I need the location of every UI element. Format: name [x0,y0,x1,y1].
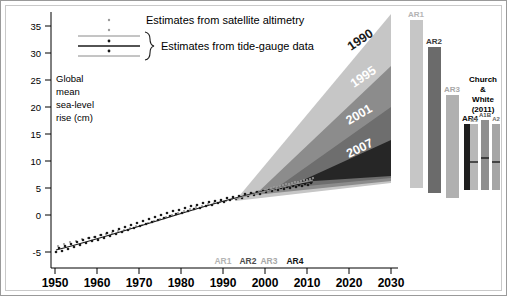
x-tick-label: 2030 [378,276,405,290]
y-tick-label: 10 [30,156,41,167]
church-white-group: Church & White (2011) B1 A1B A2 [469,75,500,190]
report-marker-ar1: AR1 [214,256,231,266]
y-tick-label: 25 [30,75,41,86]
y-axis-label-line: mean [56,86,80,97]
legend-brace-icon [145,32,154,60]
range-bar-label-ar1: AR1 [408,10,425,19]
report-marker-ar4: AR4 [286,256,303,266]
x-tick-label: 2000 [252,276,279,290]
church-white-label-b1: B1 [470,117,478,123]
figure-container: 1990 1995 2001 2007 [0,0,507,296]
legend-label-satellite: Estimates from satellite altimetry [146,14,305,26]
observed-data [55,177,314,253]
report-year-markers: AR1 AR2 AR3 AR4 [214,256,303,266]
x-tick-label: 2010 [294,276,321,290]
church-white-title-line: White [472,95,494,104]
x-tick-label: 1950 [42,276,69,290]
church-white-bar-a2 [492,124,500,190]
y-axis-label: Global mean sea-level rise (cm) [56,73,94,123]
y-ticks [45,26,51,252]
y-axis-label-line: sea-level [56,99,94,110]
church-white-title-line: & [480,85,486,94]
church-white-label-a2: A2 [492,116,500,122]
y-tick-label: -5 [33,247,41,258]
y-tick-labels: 35 30 25 20 15 10 5 0 -5 [30,21,41,258]
legend-item-satellite: Estimates from satellite altimetry [108,14,305,31]
x-tick-label: 1980 [168,276,195,290]
y-tick-label: 5 [36,183,41,194]
y-tick-label: 0 [36,210,41,221]
y-axis-label-line: rise (cm) [56,112,93,123]
report-marker-ar2: AR2 [239,256,256,266]
chart-panel: 1990 1995 2001 2007 [5,5,502,291]
report-marker-ar3: AR3 [260,256,277,266]
y-tick-label: 35 [30,21,41,32]
range-bar-label-ar3: AR3 [444,85,461,94]
church-white-label-a1b: A1B [479,112,492,118]
legend-item-tide-gauge: Estimates from tide-gauge data [78,32,315,60]
sea-level-chart: 1990 1995 2001 2007 [6,6,502,291]
church-white-title-line: Church [469,75,497,84]
range-bar-ar3 [446,95,459,198]
x-tick-label: 2020 [336,276,363,290]
range-bar-ar1 [410,20,423,188]
y-axis-label-line: Global [56,73,83,84]
x-tick-label: 1970 [126,276,153,290]
church-white-bar-a1b [481,120,489,190]
range-bar-ar2 [428,47,441,193]
range-bars: AR1 AR2 AR3 AR4 [408,10,479,198]
x-tick-label: 1960 [84,276,111,290]
x-tick-label: 1990 [210,276,237,290]
y-tick-label: 15 [30,129,41,140]
x-ticks [55,268,391,274]
church-white-bar-b1 [470,124,478,190]
y-tick-label: 30 [30,48,41,59]
y-tick-label: 20 [30,102,41,113]
legend-label-tide-gauge: Estimates from tide-gauge data [161,40,315,52]
chart-legend: Estimates from satellite altimetry Estim… [78,14,315,60]
range-bar-label-ar2: AR2 [426,37,443,46]
x-tick-labels: 1950 1960 1970 1980 1990 2000 2010 2020 … [42,276,405,290]
